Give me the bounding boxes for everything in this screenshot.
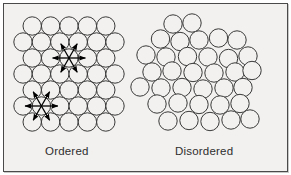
atom-circle xyxy=(151,30,169,48)
atom-circle xyxy=(97,17,115,35)
atom-circle xyxy=(137,46,155,64)
atom-circle xyxy=(106,65,124,83)
atom-circle xyxy=(231,94,249,112)
atom-circle xyxy=(152,79,170,97)
atom-circle xyxy=(87,65,105,83)
atom-circle xyxy=(51,33,69,51)
atom-circle xyxy=(87,97,105,115)
atom-circle xyxy=(241,110,259,128)
atom-circle xyxy=(51,65,69,83)
atom-circle xyxy=(163,62,181,80)
ordered-disordered-figure: Ordered Disordered xyxy=(0,0,291,175)
atom-circle xyxy=(148,95,166,113)
atom-circle xyxy=(14,33,32,51)
atom-circle xyxy=(209,29,227,47)
atom-circle xyxy=(60,113,78,131)
atom-circle xyxy=(78,113,96,131)
label-ordered: Ordered xyxy=(45,145,89,157)
atom-circle xyxy=(23,49,41,67)
atom-circle xyxy=(69,65,87,83)
label-disordered: Disordered xyxy=(175,145,233,157)
atom-circle xyxy=(106,97,124,115)
atom-circle xyxy=(60,81,78,99)
atom-circle xyxy=(159,112,177,130)
atom-circle xyxy=(97,113,115,131)
atom-circle xyxy=(97,81,115,99)
atom-circle xyxy=(215,79,233,97)
atom-circle xyxy=(222,111,240,129)
atom-circle xyxy=(164,15,182,33)
atom-circle xyxy=(23,17,41,35)
atom-circle xyxy=(23,81,41,99)
atom-circle xyxy=(234,78,252,96)
atom-circle xyxy=(41,17,59,35)
atom-circle xyxy=(41,81,59,99)
atom-circle xyxy=(106,33,124,51)
atom-circle xyxy=(69,97,87,115)
atom-circle xyxy=(32,65,50,83)
atom-circle xyxy=(243,61,261,79)
atom-circle xyxy=(190,95,208,113)
atom-circle xyxy=(78,17,96,35)
atom-circle xyxy=(87,33,105,51)
atom-circle xyxy=(69,33,87,51)
atom-circle xyxy=(41,113,59,131)
atom-circle xyxy=(32,33,50,51)
diagram-canvas xyxy=(0,0,291,175)
atom-circle xyxy=(143,63,161,81)
atom-circle xyxy=(23,113,41,131)
atom-circle xyxy=(201,112,219,130)
atom-circle xyxy=(131,78,149,96)
ordered-lattice xyxy=(14,17,124,131)
atom-circle xyxy=(60,17,78,35)
disordered-cluster xyxy=(131,14,261,131)
atom-circle xyxy=(228,31,246,49)
atom-circle xyxy=(183,14,201,32)
atom-circle xyxy=(190,31,208,49)
atom-circle xyxy=(78,81,96,99)
atom-circle xyxy=(180,111,198,129)
atom-circle xyxy=(97,49,115,67)
atom-circle xyxy=(169,94,187,112)
atom-circle xyxy=(14,65,32,83)
